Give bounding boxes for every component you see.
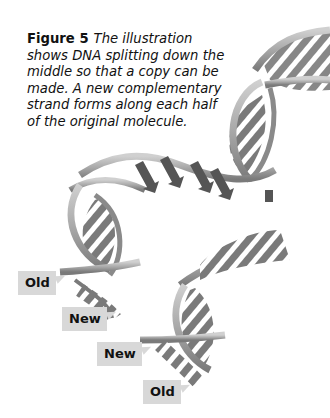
left-daughter-helix bbox=[60, 185, 140, 318]
dna-replication-illustration bbox=[0, 0, 330, 418]
right-daughter-helix bbox=[140, 230, 290, 382]
label-new-lower: New bbox=[97, 342, 142, 366]
original-helix bbox=[229, 30, 330, 180]
label-old-lower: Old bbox=[143, 380, 181, 404]
label-old-upper: Old bbox=[18, 271, 56, 295]
label-new-upper: New bbox=[62, 307, 107, 331]
